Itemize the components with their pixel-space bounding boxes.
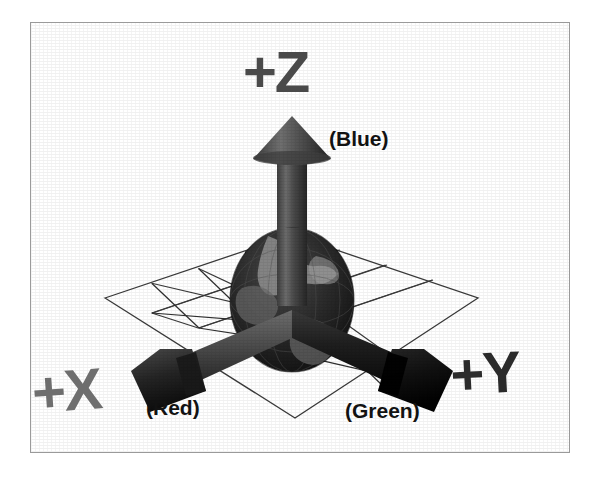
y-axis-label: +Y [449,342,521,404]
z-axis-color-label: (Blue) [329,128,389,149]
z-axis-shaft-front [277,228,307,306]
y-axis-color-label: (Green) [345,400,420,421]
x-axis-color-label: (Red) [146,397,200,418]
figure-root: +Z +X +Y (Blue) (Red) (Green) [0,0,596,479]
z-axis-arrowhead-base [253,151,331,165]
z-axis-label: +Z [243,43,308,101]
x-axis-label: +X [30,359,102,422]
